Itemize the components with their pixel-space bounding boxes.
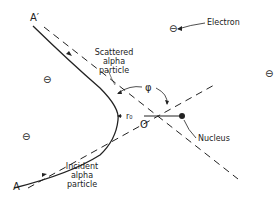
incident-direction-arrow [42,173,47,177]
nucleus-pointer [184,120,196,138]
label-a: A [13,182,20,191]
incident-label-line2: alpha [62,171,102,180]
scattered-label-line2: alpha [92,57,136,66]
electron-pointer [178,23,205,29]
scattered-label-line1: Scattered [92,48,136,57]
origin-label: O [140,120,148,129]
electron-icon: ⊖ [265,69,273,78]
phi-label: φ [145,83,152,92]
electron-icon: ⊖ [43,75,51,84]
phi-arc-right [156,88,167,104]
nucleus-dot [179,113,185,119]
electron-icon: ⊖ [22,132,30,141]
label-a-prime: A′ [30,13,39,22]
scattered-asymptote [44,27,238,179]
electron-label: Electron [207,18,240,27]
incident-asymptote [28,84,216,188]
phi-arrowhead-right [165,100,169,105]
electron-pointer-arrowhead [177,26,182,31]
incident-label-line1: Incident [62,162,102,171]
scattered-label-line3: particle [92,66,136,75]
nucleus-label: Nucleus [198,134,230,143]
electron-icon: ⊖ [169,24,177,33]
incident-label: Incident alpha particle [62,162,102,189]
r0-label: r₀ [126,112,133,121]
scattered-label: Scattered alpha particle [92,48,136,75]
incident-label-line3: particle [62,180,102,189]
scattering-diagram [0,0,279,199]
scattered-direction-arrow [66,51,72,56]
